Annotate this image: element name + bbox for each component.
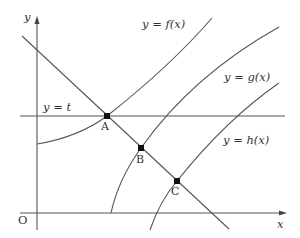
point-b-marker (138, 145, 144, 151)
x-axis-label: x (277, 219, 284, 231)
point-c-marker (174, 178, 180, 184)
curve-h (150, 83, 279, 230)
point-a-marker (104, 113, 110, 119)
y-axis-arrow-icon (35, 16, 40, 24)
curve-f-label: y = f(x) (142, 19, 185, 31)
curve-f (37, 18, 212, 144)
curve-h-label: y = h(x) (223, 135, 269, 147)
point-b-label: B (136, 154, 144, 165)
origin-label: O (18, 215, 27, 227)
x-axis-arrow-icon (279, 211, 287, 216)
y-axis-label: y (24, 12, 31, 24)
function-graph-diagram: y x O y = t y = f(x) y = g(x) y = h(x) A… (0, 0, 300, 238)
curve-g (111, 27, 279, 213)
line-t-label: y = t (43, 102, 71, 114)
diagonal-line (22, 36, 229, 229)
curve-g-label: y = g(x) (224, 72, 270, 84)
point-c-label: C (171, 186, 179, 197)
graph-canvas (0, 0, 300, 238)
point-a-label: A (101, 121, 109, 132)
